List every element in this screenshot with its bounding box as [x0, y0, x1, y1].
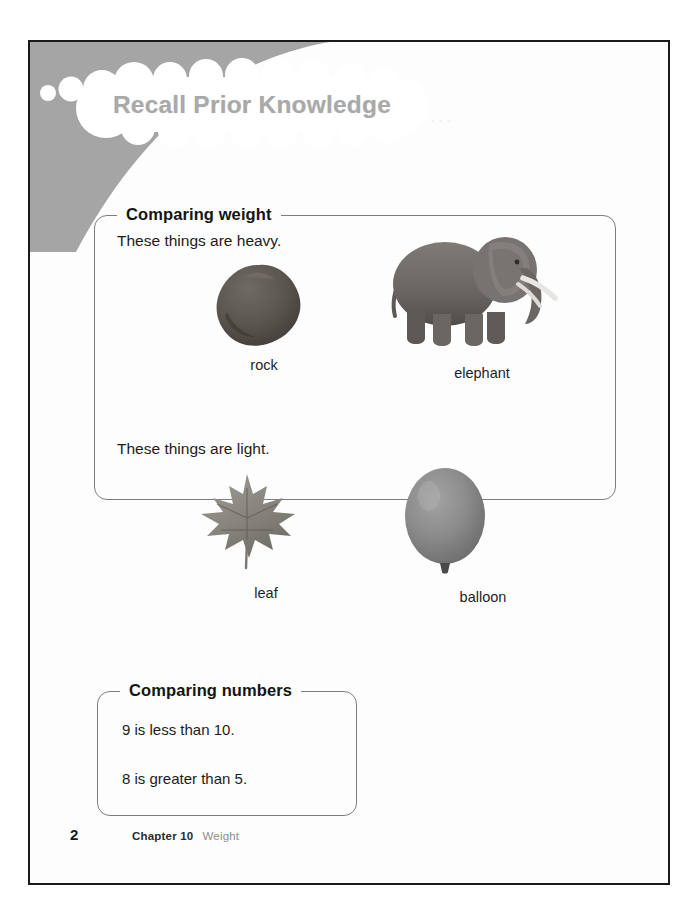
leaf-icon [191, 468, 341, 580]
page-title: Recall Prior Knowledge [72, 64, 432, 146]
footer-page-number: 2 [70, 826, 132, 843]
elephant-icon [377, 228, 587, 360]
heavy-statement: These things are heavy. [117, 232, 281, 250]
balloon-caption: balloon [393, 589, 573, 605]
figure-leaf: leaf [191, 468, 341, 601]
figure-elephant: elephant [377, 228, 587, 381]
number-statement-less-than: 9 is less than 10. [122, 721, 235, 738]
figure-balloon: balloon [393, 464, 573, 605]
number-statement-greater-than: 8 is greater than 5. [122, 770, 247, 787]
figure-rock: rock [199, 260, 329, 373]
scan-ghost: · · · [430, 112, 452, 128]
rock-icon [199, 260, 329, 352]
elephant-caption: elephant [377, 365, 587, 381]
page-footer: 2 Chapter 10 Weight [70, 826, 239, 843]
comparing-numbers-legend: Comparing numbers [120, 681, 301, 700]
footer-chapter-label: Chapter 10 [132, 830, 193, 842]
textbook-page: Recall Prior Knowledge · · · Comparing w… [28, 40, 670, 885]
rock-caption: rock [199, 357, 329, 373]
footer-topic-label: Weight [202, 830, 239, 842]
comparing-weight-legend: Comparing weight [117, 205, 281, 224]
comparing-weight-panel: Comparing weight These things are heavy.… [94, 215, 616, 500]
comparing-numbers-panel: Comparing numbers 9 is less than 10. 8 i… [97, 691, 357, 816]
light-statement: These things are light. [117, 440, 270, 458]
leaf-caption: leaf [191, 585, 341, 601]
balloon-icon [393, 464, 573, 584]
